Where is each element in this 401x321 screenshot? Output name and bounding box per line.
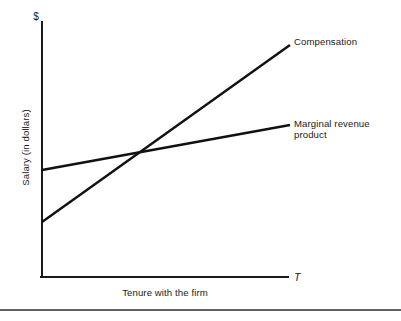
compensation-series-label: Compensation — [294, 36, 398, 47]
y-axis-tip-label: $ — [33, 11, 39, 22]
chart-canvas: $ T — [0, 0, 401, 321]
y-axis-title: Salary (in dollars) — [20, 93, 31, 203]
marginal-revenue-product-line — [42, 125, 290, 170]
chart-figure: $ T Compensation Marginal revenue produc… — [0, 0, 401, 321]
x-axis-title: Tenure with the firm — [41, 287, 289, 298]
x-axis-tip-label: T — [294, 271, 302, 283]
marginal-revenue-product-series-label: Marginal revenue product — [294, 118, 394, 141]
compensation-line — [42, 45, 290, 222]
